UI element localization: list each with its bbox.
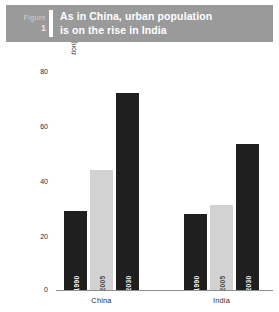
figure-title-line-2: is on the rise in India bbox=[60, 24, 212, 37]
y-tick-label-60: 60 bbox=[22, 123, 48, 130]
figure-caption-block: Figure 1 bbox=[6, 14, 49, 33]
y-tick-label-80: 80 bbox=[22, 68, 48, 75]
figure-title: As in China, urban population is on the … bbox=[60, 10, 212, 37]
x-axis-line bbox=[56, 290, 273, 291]
bar-india-2005[interactable]: 2005 bbox=[210, 205, 233, 291]
bar-china-2005[interactable]: 2005 bbox=[90, 170, 113, 291]
figure-word-label: Figure bbox=[6, 14, 46, 23]
figure-title-line-1: As in China, urban population bbox=[60, 10, 212, 23]
bar-india-2030[interactable]: 2030 bbox=[236, 144, 259, 292]
figure-container: Figure 1 As in China, urban population i… bbox=[0, 0, 279, 312]
bar-china-1990[interactable]: 1990 bbox=[64, 211, 87, 291]
figure-number-label: 1 bbox=[6, 23, 46, 33]
y-tick-label-40: 40 bbox=[22, 178, 48, 185]
header-divider-rule bbox=[49, 10, 53, 37]
group-label-india: India bbox=[184, 296, 259, 305]
bar-india-1990[interactable]: 1990 bbox=[184, 214, 207, 291]
bar-china-2030[interactable]: 2030 bbox=[116, 93, 139, 291]
group-label-china: China bbox=[64, 296, 139, 305]
y-tick-label-20: 20 bbox=[22, 233, 48, 240]
plot-area: 1990 2005 2030 1990 2005 2030 bbox=[56, 55, 273, 291]
figure-header: Figure 1 As in China, urban population i… bbox=[6, 5, 273, 42]
y-tick-label-0: 0 bbox=[22, 286, 48, 293]
